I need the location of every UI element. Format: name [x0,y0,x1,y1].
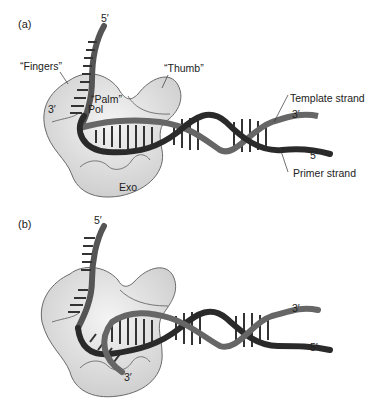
label-pol: Pol [88,103,103,115]
label-3prime-bottom-b: 3′ [124,371,132,383]
fingers-leader [60,72,68,84]
label-5prime-top-a: 5′ [101,12,109,24]
label-fingers: “Fingers” [20,60,63,72]
label-5prime-top-b: 5′ [94,214,102,226]
label-5prime-right-b: 5′ [310,341,318,353]
label-primer-strand: Primer strand [293,167,356,179]
dna-polymerase-diagram: (a) [0,0,377,406]
label-3prime-left-a: 3′ [48,103,56,115]
label-template-strand: Template strand [290,92,365,104]
label-5prime-primer: 5′ [310,149,318,161]
label-3prime-template: 3′ [292,108,300,120]
label-exo: Exo [119,181,137,193]
panel-a-label: (a) [18,18,31,30]
label-3prime-right-b: 3′ [292,302,300,314]
panel-b: (b) [18,214,330,397]
panel-a: (a) [18,12,365,197]
label-thumb: “Thumb” [164,62,204,74]
panel-b-label: (b) [18,218,31,230]
